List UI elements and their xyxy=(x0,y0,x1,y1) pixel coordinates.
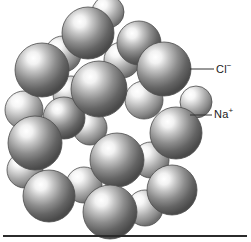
sodium-symbol: Na xyxy=(214,108,228,120)
callout-leader-lines xyxy=(0,0,251,242)
chloride-ion-label: Cl− xyxy=(216,63,232,75)
nacl-lattice-figure: Cl− Na+ xyxy=(0,0,251,242)
sodium-charge: + xyxy=(228,106,233,115)
sodium-ion-label: Na+ xyxy=(214,108,233,120)
bottom-divider-rule xyxy=(3,235,247,237)
chloride-charge: − xyxy=(227,61,232,70)
chloride-symbol: Cl xyxy=(216,63,227,75)
